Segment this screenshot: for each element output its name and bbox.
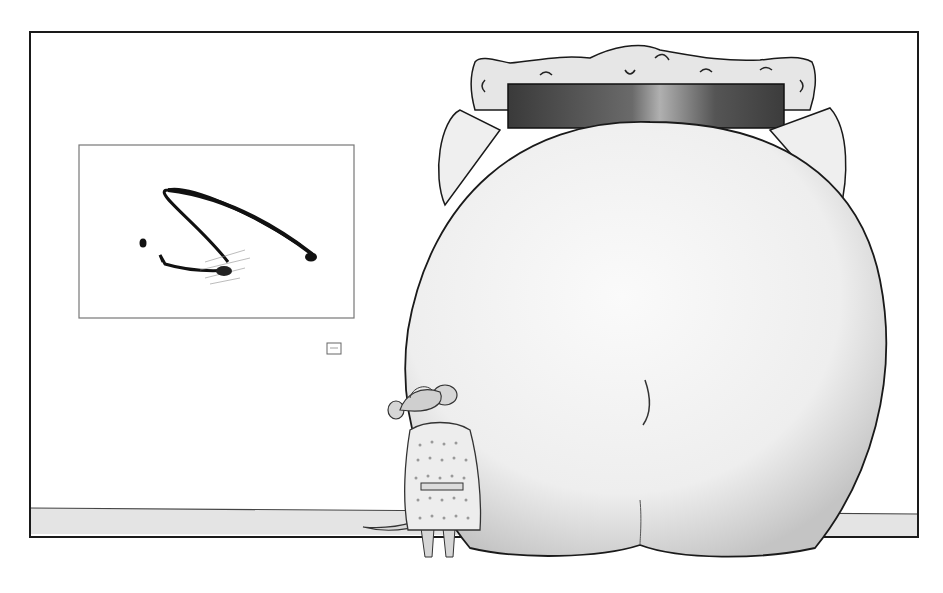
abstract-painting — [79, 145, 354, 318]
cartoon-scene — [0, 0, 943, 593]
coat-belt — [421, 483, 463, 490]
